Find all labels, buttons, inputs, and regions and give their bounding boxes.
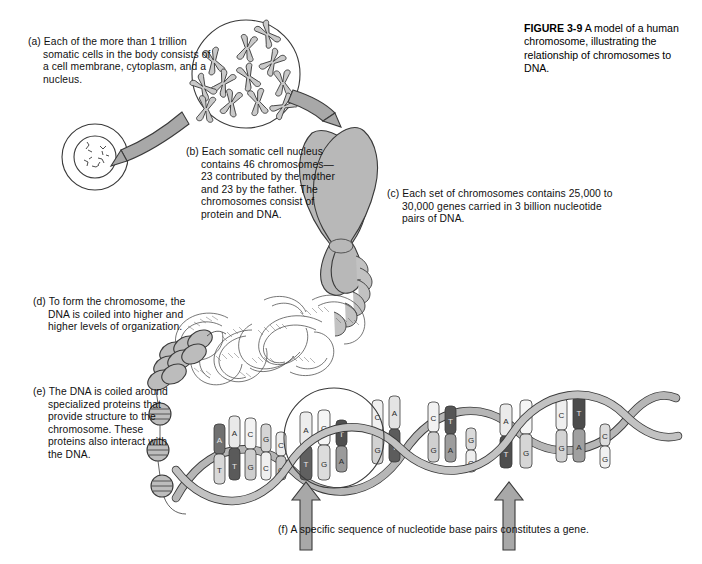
svg-text:A: A <box>232 429 238 438</box>
svg-text:A: A <box>448 446 454 455</box>
dna-double-helix-group: A T A T C G G <box>176 388 678 501</box>
svg-text:C: C <box>559 411 565 420</box>
base-pair: C G <box>428 402 439 462</box>
svg-text:C: C <box>431 414 437 423</box>
svg-text:A: A <box>576 443 582 452</box>
base-pair: C G <box>318 410 330 480</box>
svg-text:C: C <box>602 432 608 441</box>
svg-text:G: G <box>247 463 253 472</box>
caption-c: (c) Each set of chromosomes contains 25,… <box>387 188 617 226</box>
figure-number: FIGURE 3-9 <box>524 22 582 34</box>
svg-text:G: G <box>558 444 564 453</box>
gene-arrow-right <box>495 482 523 550</box>
svg-text:G: G <box>523 449 529 458</box>
gene-arrow-left <box>292 482 320 550</box>
caption-b: (b) Each somatic cell nucleus contains 4… <box>186 146 341 222</box>
svg-text:T: T <box>504 450 509 459</box>
base-pair: T A <box>445 406 456 462</box>
caption-e: (e) The DNA is coiled around specialized… <box>33 386 168 462</box>
svg-text:C: C <box>278 441 284 450</box>
nucleus-icon <box>74 136 116 178</box>
svg-text:G: G <box>468 436 474 445</box>
svg-text:A: A <box>217 436 223 445</box>
svg-text:G: G <box>374 446 380 455</box>
svg-text:G: G <box>321 460 327 469</box>
linker-dna-3 <box>158 461 160 476</box>
svg-text:T: T <box>304 460 309 469</box>
svg-text:G: G <box>602 455 608 464</box>
caption-f: (f) A specific sequence of nucleotide ba… <box>278 524 678 537</box>
helix-magnifier-circle <box>284 388 384 488</box>
svg-text:A: A <box>392 409 398 418</box>
caption-a: (a) Each of the more than 1 trillion som… <box>28 36 218 86</box>
figure-title: FIGURE 3-9 A model of a human chromosome… <box>524 22 692 76</box>
svg-text:C: C <box>248 430 254 439</box>
magnify-arrow-spread-to-chromosome <box>288 90 341 127</box>
svg-text:G: G <box>263 435 269 444</box>
svg-text:T: T <box>232 462 237 471</box>
caption-d: (d) To form the chromosome, the DNA is c… <box>33 296 198 334</box>
svg-text:A: A <box>303 426 309 435</box>
svg-text:T: T <box>577 409 582 418</box>
nucleosome-bead <box>151 475 173 497</box>
svg-text:A: A <box>339 457 345 466</box>
figure-container: .ol { stroke: #3a3a3a; stroke-width: 1.1… <box>0 0 702 564</box>
base-pair: T A <box>573 396 585 462</box>
centromere <box>329 239 353 253</box>
nucleus-chromatin-icon <box>84 142 109 167</box>
svg-text:T: T <box>217 466 222 475</box>
base-pair: C G <box>556 398 567 462</box>
svg-text:C: C <box>263 464 269 473</box>
svg-text:G: G <box>430 446 436 455</box>
svg-text:A: A <box>503 417 509 426</box>
svg-text:T: T <box>448 417 453 426</box>
